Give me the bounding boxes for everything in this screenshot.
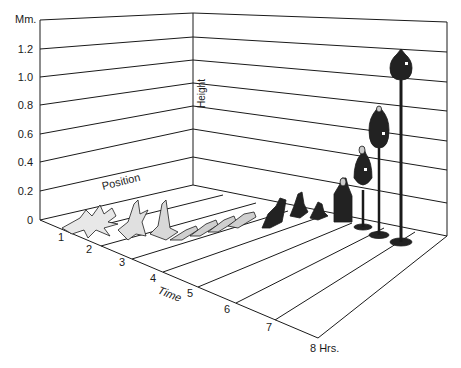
height-axis-title: Height: [196, 79, 207, 108]
amoeboid-cells: [62, 205, 118, 238]
time-axis-title: Time: [156, 284, 183, 304]
position-axis-title: Position: [101, 171, 142, 192]
y-tick: 0: [27, 214, 33, 226]
mexican-hat: [310, 202, 328, 220]
back-wall: [40, 13, 193, 220]
x-tick: 5: [187, 287, 193, 299]
right-wall: [193, 13, 447, 236]
y-tick: 1.0: [18, 71, 33, 83]
slime-mold-development-diagram: Mm. 0 0.2 0.4 0.6 0.8 1.0 1.2 Height 1 2…: [0, 0, 461, 368]
tipped-aggregate: [150, 200, 178, 240]
x-tick-end: 8 Hrs.: [310, 342, 339, 354]
x-tick: 3: [119, 256, 125, 268]
x-tick: 2: [86, 243, 92, 255]
y-tick: 0.2: [18, 185, 33, 197]
y-tick: 1.2: [18, 43, 33, 55]
y-unit-label: Mm.: [15, 13, 36, 25]
y-tick: 0.6: [18, 128, 33, 140]
y-axis-labels: Mm. 0 0.2 0.4 0.6 0.8 1.0 1.2 Height: [15, 13, 207, 226]
x-tick: 7: [266, 321, 272, 333]
y-tick: 0.4: [18, 156, 33, 168]
y-tick: 0.8: [18, 99, 33, 111]
x-tick: 6: [224, 303, 230, 315]
culminants-with-stalks: [354, 49, 412, 246]
x-tick: 1: [58, 231, 64, 243]
x-tick: 4: [150, 272, 156, 284]
culmination-onset: [262, 198, 286, 228]
